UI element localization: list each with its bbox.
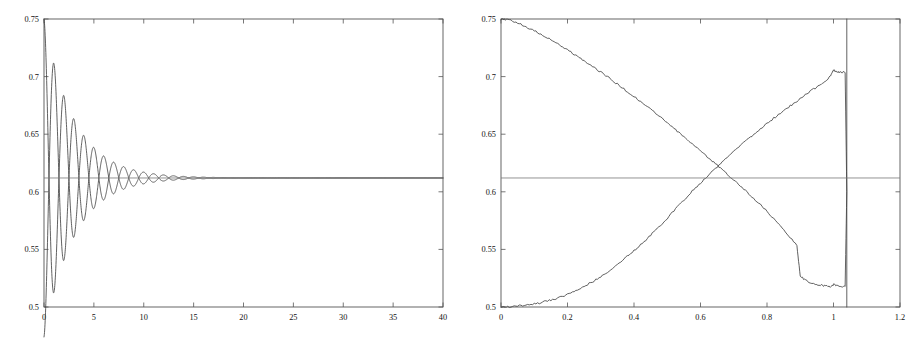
x-axis-tick-label: 35 <box>389 313 397 322</box>
data-curve <box>501 19 847 288</box>
y-axis-tick-label: 0.7 <box>486 73 496 82</box>
y-axis-tick-label: 0.55 <box>24 245 39 254</box>
x-axis-tick-label: 25 <box>289 313 297 322</box>
chart-panel-left: 05101520253035400.50.550.60.650.70.75 <box>0 0 457 341</box>
x-axis-tick-label: 10 <box>140 313 148 322</box>
x-axis-tick-label: 40 <box>439 313 447 322</box>
x-axis-tick-label: 5 <box>92 313 96 322</box>
plot-frame <box>501 19 900 307</box>
figure-container: 05101520253035400.50.550.60.650.70.75 00… <box>0 0 914 341</box>
y-axis-tick-label: 0.6 <box>29 188 39 197</box>
x-axis-tick-label: 0 <box>499 313 503 322</box>
right-plot-svg: 00.20.40.60.811.20.50.550.60.650.70.75 <box>457 0 914 341</box>
y-axis-tick-label: 0.75 <box>481 15 496 24</box>
x-axis-tick-label: 0.8 <box>762 313 772 322</box>
y-axis-tick-label: 0.6 <box>486 188 496 197</box>
left-plot-svg: 05101520253035400.50.550.60.650.70.75 <box>0 0 457 341</box>
y-axis-tick-label: 0.65 <box>481 130 496 139</box>
data-curve <box>44 63 443 337</box>
data-curve <box>501 70 847 308</box>
x-axis-tick-label: 0.4 <box>629 313 640 322</box>
x-axis-tick-label: 0.6 <box>695 313 705 322</box>
y-axis-tick-label: 0.5 <box>486 303 496 312</box>
x-axis-tick-label: 0.2 <box>562 313 572 322</box>
data-curve <box>44 19 443 293</box>
x-axis-tick-label: 30 <box>339 313 347 322</box>
y-axis-tick-label: 0.5 <box>29 303 39 312</box>
y-axis-tick-label: 0.7 <box>29 73 39 82</box>
x-axis-tick-label: 1.2 <box>895 313 905 322</box>
y-axis-tick-label: 0.75 <box>24 15 39 24</box>
x-axis-tick-label: 15 <box>189 313 197 322</box>
x-axis-tick-label: 20 <box>239 313 247 322</box>
plot-frame <box>44 19 443 307</box>
chart-panel-right: 00.20.40.60.811.20.50.550.60.650.70.75 <box>457 0 914 341</box>
y-axis-tick-label: 0.55 <box>481 245 496 254</box>
y-axis-tick-label: 0.65 <box>24 130 39 139</box>
x-axis-tick-label: 1 <box>831 313 835 322</box>
